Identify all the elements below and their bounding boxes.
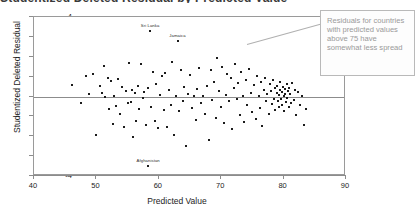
- scatter-point: [202, 95, 204, 97]
- scatter-point: [261, 125, 263, 127]
- scatter-point: [258, 95, 260, 97]
- zero-reference-line: [34, 97, 344, 98]
- scatter-point: [147, 87, 149, 89]
- scatter-point: [288, 106, 290, 108]
- scatter-point: [246, 104, 248, 106]
- scatter-point: [270, 90, 272, 92]
- scatter-point: [175, 95, 177, 97]
- scatter-point: [287, 90, 289, 92]
- scatter-point: [236, 98, 238, 100]
- scatter-point: [198, 67, 200, 69]
- scatter-point: [276, 85, 278, 87]
- chart-title: Studentized Deleted Residual by Predicte…: [0, 0, 420, 3]
- scatter-point: [303, 124, 305, 126]
- scatter-point: [138, 108, 140, 110]
- scatter-point: [183, 86, 185, 88]
- scatter-point-label: Sri Lanka: [141, 23, 160, 28]
- scatter-point: [265, 100, 267, 102]
- x-axis-tick-label: 40: [29, 181, 37, 190]
- scatter-point: [180, 69, 182, 71]
- scatter-point: [281, 104, 283, 106]
- scatter-point: [185, 145, 187, 147]
- scatter-point: [305, 108, 307, 110]
- x-axis-tick-label: 60: [154, 181, 162, 190]
- scatter-point: [127, 102, 129, 104]
- scatter-point: [101, 92, 103, 94]
- scatter-point: [264, 77, 266, 79]
- scatter-point: [117, 78, 119, 80]
- scatter-point: [142, 97, 144, 99]
- scatter-point: [226, 73, 228, 75]
- scatter-point: [143, 91, 145, 93]
- scatter-point: [152, 71, 154, 73]
- scatter-point: [137, 85, 139, 87]
- scatter-point: [260, 81, 262, 83]
- scatter-point: [286, 83, 288, 85]
- scatter-point: [92, 73, 94, 75]
- scatter-point: [195, 119, 197, 121]
- scatter-point: [95, 134, 97, 136]
- scatter-point: [112, 123, 114, 125]
- scatter-point-labeled: [149, 30, 151, 32]
- scatter-point-label: Afghanistan: [137, 158, 160, 163]
- scatter-point: [178, 110, 180, 112]
- scatter-point: [168, 89, 170, 91]
- scatter-point: [208, 139, 210, 141]
- x-axis-line: [33, 175, 345, 176]
- scatter-point: [108, 108, 110, 110]
- scatter-point: [233, 87, 235, 89]
- scatter-point: [243, 121, 245, 123]
- scatter-point: [215, 117, 217, 119]
- scatter-point: [281, 91, 283, 93]
- scatter-point: [255, 118, 257, 120]
- scatter-point-label: Jamaica: [169, 33, 185, 38]
- scatter-point: [284, 93, 286, 95]
- scatter-point: [279, 81, 281, 83]
- scatter-point: [239, 114, 241, 116]
- scatter-point: [206, 85, 208, 87]
- scatter-point: [204, 113, 206, 115]
- scatter-point: [196, 88, 198, 90]
- scatter-point: [295, 114, 297, 116]
- scatter-point: [251, 111, 253, 113]
- scatter-point: [166, 126, 168, 128]
- scatter-point: [245, 79, 247, 81]
- x-axis-title-text: Predicted Value: [147, 196, 206, 206]
- scatter-point: [130, 101, 132, 103]
- plot-area: Sri LankaJamaicaAfghanistan: [33, 16, 345, 175]
- scatter-point: [163, 109, 165, 111]
- x-axis-tick-mark: [220, 175, 221, 179]
- x-axis-tick-label: 80: [278, 181, 286, 190]
- scatter-point: [135, 120, 137, 122]
- scatter-point: [128, 62, 130, 64]
- scatter-point: [259, 107, 261, 109]
- scatter-point: [88, 93, 90, 95]
- scatter-point: [293, 99, 295, 101]
- scatter-point: [253, 84, 255, 86]
- x-axis-tick-label: 50: [91, 181, 99, 190]
- scatter-point: [234, 63, 236, 65]
- scatter-point: [145, 124, 147, 126]
- scatter-point: [278, 94, 280, 96]
- scatter-point: [278, 106, 280, 108]
- scatter-point: [125, 90, 127, 92]
- scatter-point: [223, 122, 225, 124]
- scatter-point: [131, 89, 133, 91]
- scatter-point: [221, 66, 223, 68]
- y-axis-title: Studentized Deleted Residual: [12, 2, 22, 152]
- scatter-point: [237, 82, 239, 84]
- scatter-point: [211, 99, 213, 101]
- scatter-point: [271, 103, 273, 105]
- scatter-point: [288, 87, 290, 89]
- chart-root: Studentized Deleted Residual by Predicte…: [0, 0, 420, 211]
- x-axis-title: Predicted Value: [0, 196, 420, 206]
- scatter-point: [171, 61, 173, 63]
- scatter-point: [140, 63, 142, 65]
- scatter-point: [225, 94, 227, 96]
- scatter-point: [250, 92, 252, 94]
- scatter-point: [193, 95, 195, 97]
- scatter-point: [273, 98, 275, 100]
- scatter-point: [123, 126, 125, 128]
- scatter-point: [71, 84, 73, 86]
- scatter-point: [248, 68, 250, 70]
